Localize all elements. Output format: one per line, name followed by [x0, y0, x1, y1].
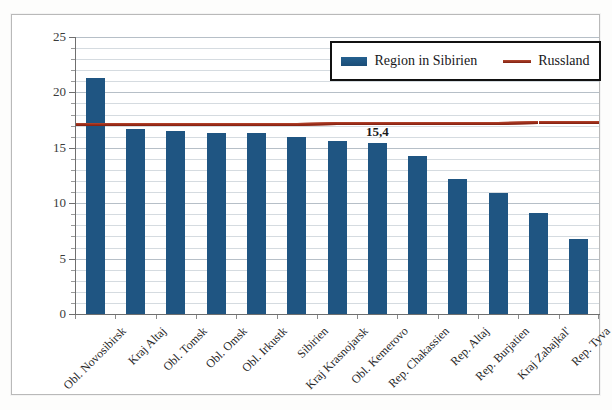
y-tick-label: 15 — [53, 140, 66, 156]
bar — [86, 78, 105, 314]
bar — [166, 131, 185, 314]
bar — [247, 133, 266, 314]
data-label: 15,4 — [366, 124, 389, 140]
x-axis-label: Obl. Omsk — [203, 324, 251, 372]
x-axis-label: Obl. Novosibirsk — [61, 324, 130, 393]
x-axis-label: Rep. Altaj — [448, 324, 493, 369]
x-axis-label: Obl. Tomsk — [160, 324, 210, 374]
bar — [569, 239, 588, 314]
x-axis-label: Sibirien — [294, 324, 331, 361]
reference-line-segment — [135, 123, 175, 126]
bar — [328, 141, 347, 314]
x-axis-label: Kraj Krasnojarsk — [303, 324, 372, 393]
legend-label-region-in-sibirien: Region in Sibirien — [374, 53, 477, 69]
reference-line-segment — [458, 122, 498, 125]
reference-line-segment — [176, 123, 216, 126]
bar — [448, 179, 467, 314]
bar — [368, 143, 387, 314]
reference-line-segment — [579, 121, 599, 124]
reference-line-segment — [418, 122, 458, 125]
gridline-minor — [75, 115, 599, 116]
y-axis — [75, 37, 76, 315]
bar — [207, 133, 226, 314]
x-axis-label: Rep. Burjatien — [473, 324, 533, 384]
gridline-minor — [75, 81, 599, 82]
x-axis-label: Kraj Altaj — [126, 324, 170, 368]
bar — [287, 137, 306, 314]
bar — [126, 129, 145, 314]
x-axis — [75, 314, 600, 315]
reference-line-segment — [539, 121, 579, 124]
y-tick-label: 5 — [60, 251, 67, 267]
gridline-major — [75, 92, 599, 93]
x-axis-label: Rep. Tyva — [568, 324, 612, 369]
chart-page: 051015202515,4 Region in Sibirien Russla… — [0, 0, 612, 410]
gridline-minor — [75, 137, 599, 138]
y-tick-label: 10 — [53, 195, 66, 211]
legend-label-russland: Russland — [538, 53, 589, 69]
reference-line-segment — [256, 123, 296, 126]
reference-line-segment — [95, 123, 135, 126]
gridline-minor — [75, 103, 599, 104]
y-tick-label: 0 — [60, 306, 67, 322]
gridline-major — [75, 37, 599, 38]
legend-item-russland: Russland — [503, 53, 589, 69]
line-swatch-icon — [503, 60, 531, 63]
chart-legend: Region in Sibirien Russland — [330, 41, 601, 81]
reference-line-segment — [75, 123, 95, 126]
reference-line-segment — [216, 123, 256, 126]
x-axis-label: Obl. Irkustk — [239, 324, 291, 376]
legend-item-region-in-sibirien: Region in Sibirien — [341, 53, 477, 69]
bar — [529, 213, 548, 314]
bar-swatch-icon — [341, 57, 367, 66]
bar — [489, 193, 508, 314]
y-tick-label: 25 — [53, 29, 66, 45]
chart-frame: 051015202515,4 Region in Sibirien Russla… — [11, 14, 600, 395]
x-axis-label: Kraj Zabajkal' — [514, 324, 573, 383]
bar — [408, 156, 427, 314]
x-axis-label: Obl. Kemerovo — [349, 324, 412, 387]
x-axis-label: Rep. Chakassien — [385, 324, 452, 391]
y-tick-label: 20 — [53, 84, 66, 100]
